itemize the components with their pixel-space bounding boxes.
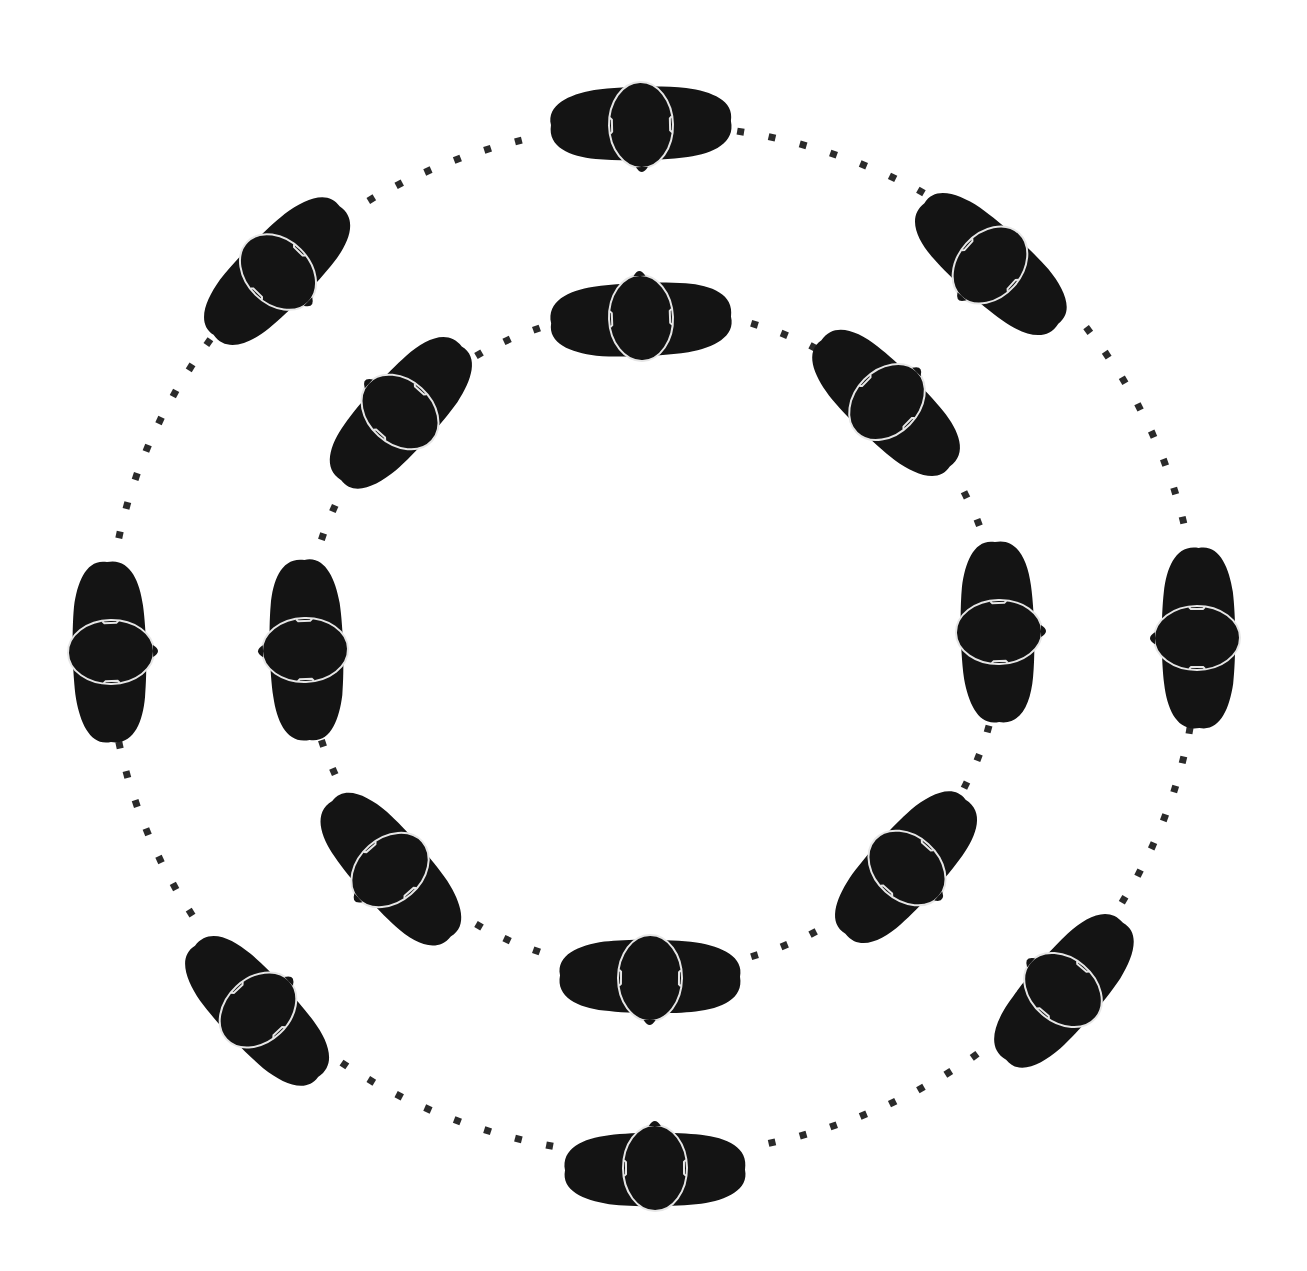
path-dot: [155, 855, 164, 864]
concentric-circles-diagram: [0, 0, 1307, 1271]
person-inner-bottom-right: [815, 772, 1003, 967]
path-dot: [1148, 841, 1157, 850]
path-dot: [340, 1060, 350, 1070]
path-dot: [888, 173, 897, 182]
path-dot: [123, 770, 132, 779]
path-dot: [1170, 487, 1179, 496]
path-dot: [186, 363, 196, 373]
nose-icon: [1150, 632, 1155, 644]
path-dot: [1148, 430, 1157, 439]
path-dot: [737, 128, 745, 136]
path-dot: [916, 1084, 926, 1094]
path-dot: [318, 739, 327, 748]
path-dot: [829, 150, 838, 159]
path-dot: [780, 941, 789, 950]
path-dot: [115, 531, 123, 539]
path-dot: [204, 337, 214, 347]
path-dot: [768, 1138, 776, 1146]
path-dot: [961, 490, 970, 499]
path-dot: [808, 928, 817, 937]
path-dot: [750, 951, 759, 960]
head-icon: [608, 81, 674, 168]
path-dot: [366, 194, 376, 204]
head-icon: [67, 619, 154, 685]
person-inner-bottom-left: [295, 774, 482, 969]
head-icon: [1154, 606, 1240, 670]
path-dot: [453, 1116, 462, 1125]
path-dot: [1179, 516, 1187, 524]
nose-icon: [153, 645, 158, 657]
path-dot: [132, 799, 141, 808]
path-dot: [546, 1142, 554, 1150]
person-outer-top-right: [891, 173, 1086, 361]
path-dot: [1134, 402, 1143, 411]
path-dot: [423, 1104, 432, 1113]
person-outer-bottom: [564, 1121, 745, 1212]
path-dot: [780, 330, 789, 339]
head-icon: [623, 1125, 687, 1211]
people-layer: [66, 80, 1240, 1211]
path-dot: [394, 1091, 403, 1100]
path-dot: [143, 827, 152, 836]
path-dot: [799, 1131, 808, 1140]
path-dot: [483, 1126, 492, 1135]
person-outer-top-left: [184, 177, 375, 369]
path-dot: [974, 518, 983, 527]
path-dot: [514, 1135, 523, 1144]
path-dot: [514, 137, 523, 146]
path-dot: [502, 935, 511, 944]
nose-icon: [636, 167, 648, 172]
path-dot: [970, 1051, 980, 1061]
path-dot: [859, 160, 868, 169]
path-dot: [423, 166, 432, 175]
person-inner-top-left: [305, 313, 493, 508]
diagram-canvas: [0, 0, 1307, 1271]
person-inner-right: [954, 540, 1048, 723]
nose-icon: [633, 271, 645, 276]
nose-icon: [1041, 625, 1046, 637]
path-dot: [155, 416, 164, 425]
path-dot: [1170, 785, 1179, 794]
path-dot: [474, 921, 484, 931]
path-dot: [483, 145, 492, 154]
path-dot: [318, 532, 327, 541]
path-dot: [1179, 756, 1187, 764]
path-dot: [750, 320, 759, 329]
nose-icon: [649, 1121, 661, 1126]
path-dot: [768, 133, 776, 141]
person-outer-left: [66, 561, 160, 744]
path-dot: [859, 1111, 868, 1120]
path-dot: [1160, 813, 1169, 822]
path-dot: [474, 349, 484, 359]
path-dot: [143, 444, 152, 453]
person-outer-bottom-left: [165, 912, 354, 1106]
path-dot: [329, 504, 338, 513]
path-dot: [829, 1121, 838, 1130]
path-dot: [961, 780, 970, 789]
path-dot: [916, 187, 926, 197]
nose-icon: [644, 1020, 656, 1025]
person-inner-bottom: [559, 934, 741, 1026]
path-dot: [1134, 868, 1143, 877]
path-dot: [186, 908, 196, 918]
path-dot: [366, 1076, 376, 1086]
path-dot: [974, 753, 983, 762]
nose-icon: [258, 645, 263, 657]
path-dot: [1119, 376, 1129, 386]
path-dot: [123, 501, 132, 510]
path-dot: [170, 389, 179, 398]
head-icon: [955, 599, 1042, 665]
path-dot: [532, 946, 541, 955]
path-dot: [453, 155, 462, 164]
path-dot: [502, 336, 511, 345]
path-dot: [170, 882, 179, 891]
path-dot: [329, 767, 338, 776]
person-inner-left: [255, 558, 350, 741]
head-icon: [618, 935, 683, 1022]
person-inner-top: [549, 268, 733, 365]
person-outer-top: [550, 80, 733, 174]
path-dot: [943, 1068, 953, 1078]
path-dot: [888, 1098, 897, 1107]
path-dot: [394, 180, 403, 189]
path-dot: [132, 472, 141, 481]
